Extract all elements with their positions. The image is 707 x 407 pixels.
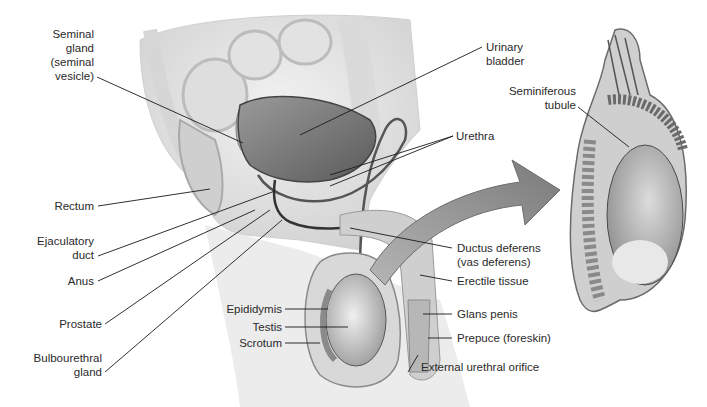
label-line: (seminal: [44, 55, 94, 69]
label-line: Urinary: [486, 40, 524, 54]
label-line: Bulbourethral: [20, 351, 102, 365]
label-glans-penis: Glans penis: [457, 307, 518, 321]
label-epididymis: Epididymis: [200, 302, 282, 316]
label-line: tubule: [500, 98, 576, 112]
label-line: Ductus deferens: [457, 241, 541, 255]
label-prepuce: Prepuce (foreskin): [457, 331, 551, 345]
label-seminal-gland: Seminal gland (seminal vesicle): [44, 27, 94, 83]
label-line: Seminiferous: [500, 84, 576, 98]
label-line: Seminal: [44, 27, 94, 41]
label-line: Ejaculatory: [20, 234, 94, 248]
label-seminiferous-tubule: Seminiferous tubule: [500, 84, 576, 112]
label-prostate: Prostate: [20, 317, 102, 331]
label-erectile-tissue: Erectile tissue: [457, 274, 529, 288]
label-line: gland: [44, 41, 94, 55]
label-line: duct: [20, 248, 94, 262]
label-scrotum: Scrotum: [200, 336, 282, 350]
label-testis: Testis: [200, 320, 282, 334]
label-bulbourethral-gland: Bulbourethral gland: [20, 351, 102, 379]
label-rectum: Rectum: [20, 199, 94, 213]
diagram-canvas: Seminal gland (seminal vesicle) Urinary …: [0, 0, 707, 407]
label-line: (vas deferens): [457, 255, 541, 269]
anatomy-illustration: [0, 0, 707, 407]
label-external-urethral-orifice: External urethral orifice: [421, 360, 539, 374]
label-ductus-deferens: Ductus deferens (vas deferens): [457, 241, 541, 269]
testis-detail-section: [570, 29, 686, 312]
label-anus: Anus: [20, 274, 94, 288]
label-ejaculatory-duct: Ejaculatory duct: [20, 234, 94, 262]
label-line: bladder: [486, 54, 524, 68]
label-line: vesicle): [44, 69, 94, 83]
label-urethra: Urethra: [456, 129, 494, 143]
label-urinary-bladder: Urinary bladder: [486, 40, 524, 68]
label-line: gland: [20, 365, 102, 379]
